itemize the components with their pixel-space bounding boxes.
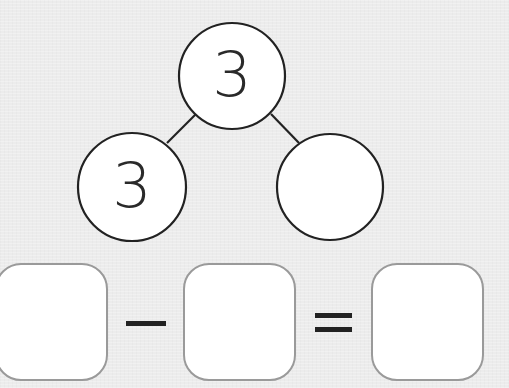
answer-box-2[interactable] [183,263,296,381]
connector-left [167,114,196,143]
minus-sign [126,321,166,326]
answer-box-1[interactable] [0,263,108,381]
equals-sign-top [315,313,352,318]
part-left-value: 3 [92,155,172,217]
part-right-circle[interactable] [277,134,383,240]
answer-box-3[interactable] [371,263,484,381]
connector-right [271,114,299,143]
whole-value: 3 [192,44,272,106]
equals-sign-bottom [315,327,352,332]
